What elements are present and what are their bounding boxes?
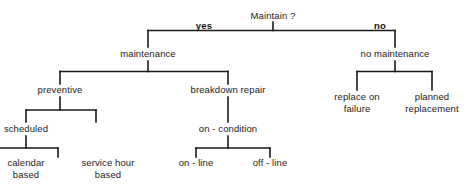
maintenance-decision-tree-diagram: Maintain ? yes no maintenance no mainten… bbox=[0, 0, 471, 193]
node-on-line: on - line bbox=[179, 157, 214, 169]
node-off-line: off - line bbox=[253, 157, 288, 169]
node-service-hour-based-line1: service hour bbox=[82, 157, 135, 169]
connector-lines bbox=[0, 0, 471, 193]
node-scheduled: scheduled bbox=[4, 123, 48, 135]
node-on-condition: on - condition bbox=[199, 123, 257, 135]
node-planned-replacement-line2: replacement bbox=[405, 102, 458, 114]
node-root-maintain: Maintain ? bbox=[251, 10, 296, 22]
node-service-hour-based-line2: based bbox=[82, 168, 135, 180]
node-planned-replacement: planned replacement bbox=[405, 91, 458, 114]
node-maintenance: maintenance bbox=[120, 48, 176, 60]
node-calendar-based: calendar based bbox=[7, 157, 44, 180]
node-replace-on-failure-line2: failure bbox=[334, 102, 379, 114]
edge-label-yes: yes bbox=[196, 20, 212, 31]
node-planned-replacement-line1: planned bbox=[405, 91, 458, 103]
node-no-maintenance: no maintenance bbox=[360, 48, 429, 60]
node-replace-on-failure-line1: replace on bbox=[334, 91, 379, 103]
node-preventive: preventive bbox=[38, 84, 83, 96]
node-breakdown-repair: breakdown repair bbox=[190, 84, 265, 96]
node-calendar-based-line1: calendar bbox=[7, 157, 44, 169]
node-replace-on-failure: replace on failure bbox=[334, 91, 379, 114]
edge-label-no: no bbox=[374, 20, 386, 31]
node-calendar-based-line2: based bbox=[7, 168, 44, 180]
node-service-hour-based: service hour based bbox=[82, 157, 135, 180]
